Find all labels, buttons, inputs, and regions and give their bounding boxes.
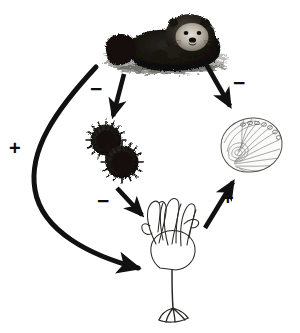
sea-otter-icon	[100, 14, 230, 74]
kelp-icon	[142, 199, 199, 323]
arrow-urchins-to-kelp	[117, 188, 142, 215]
sea-urchin-lower	[101, 141, 143, 183]
edge-sign-otter-to-abalone: −	[233, 72, 245, 93]
arrow-otter-to-urchins	[113, 74, 124, 116]
arrow-otter-to-abalone	[206, 64, 230, 106]
edge-sign-otter-to-urchins: −	[90, 78, 102, 99]
edge-sign-kelp-to-abalone: +	[222, 188, 234, 208]
edge-sign-otter-to-kelp: +	[9, 138, 21, 158]
diagram-canvas	[0, 0, 300, 333]
abalone-shell-icon	[221, 118, 282, 173]
trophic-cascade-diagram: − − + − + sea otter sea urchins abalone …	[0, 0, 300, 333]
sea-urchin-icon	[86, 120, 143, 183]
edge-sign-urchins-to-kelp: −	[97, 190, 109, 211]
